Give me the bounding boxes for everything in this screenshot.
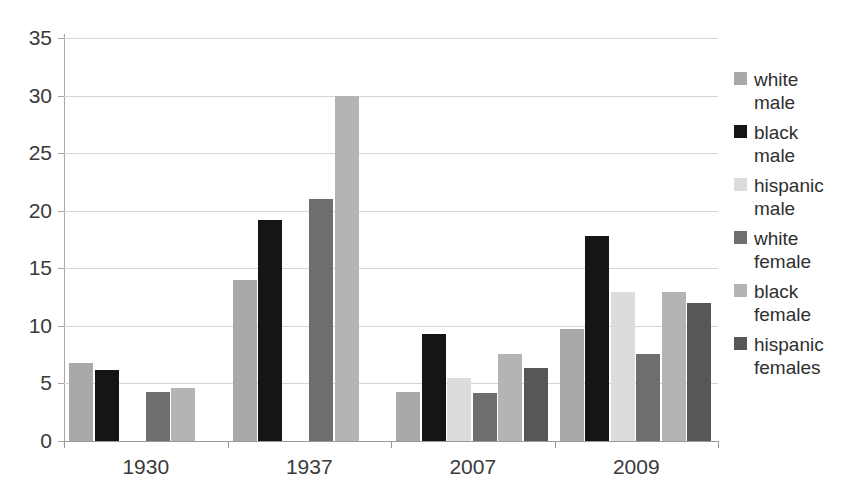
legend-swatch-icon	[734, 178, 747, 191]
bar	[447, 378, 471, 441]
y-axis-tick	[58, 38, 64, 39]
bar	[422, 334, 446, 441]
gridline	[64, 153, 718, 154]
legend-item-label: white female	[754, 227, 811, 273]
y-axis-tick-label: 5	[40, 372, 52, 393]
x-axis-category-label: 1937	[286, 455, 333, 479]
bar	[233, 280, 257, 441]
legend-item-label: hispanic male	[754, 174, 824, 220]
y-axis-tick	[58, 153, 64, 154]
legend-swatch-icon	[734, 72, 747, 85]
bar	[95, 370, 119, 441]
legend-item[interactable]: black female	[734, 280, 858, 326]
legend-item[interactable]: white female	[734, 227, 858, 273]
bar	[146, 392, 170, 442]
legend-item[interactable]: white male	[734, 68, 858, 114]
x-axis-tick	[64, 441, 65, 448]
legend-swatch-icon	[734, 231, 747, 244]
y-axis-tick-label: 15	[29, 257, 52, 278]
legend-item-label: hispanic females	[754, 333, 824, 379]
x-axis-category-label: 1930	[122, 455, 169, 479]
x-axis-tick	[555, 441, 556, 448]
bar	[687, 303, 711, 441]
y-axis-tick-label: 25	[29, 142, 52, 163]
bar	[309, 199, 333, 441]
bar	[585, 236, 609, 441]
y-axis-tick	[58, 383, 64, 384]
bar	[611, 292, 635, 441]
bar	[171, 388, 195, 441]
y-axis-tick-label: 30	[29, 85, 52, 106]
y-axis-tick	[58, 326, 64, 327]
gridline	[64, 96, 718, 97]
bar	[636, 354, 660, 442]
gridline	[64, 211, 718, 212]
y-axis-tick-labels: 05101520253035	[0, 0, 52, 499]
plot-area	[64, 38, 718, 441]
legend-item-label: black female	[754, 280, 811, 326]
y-axis-tick	[58, 211, 64, 212]
legend-swatch-icon	[734, 125, 747, 138]
gridline	[64, 268, 718, 269]
bar	[335, 96, 359, 441]
bar	[560, 329, 584, 441]
legend-swatch-icon	[734, 337, 747, 350]
y-axis-tick-label: 20	[29, 200, 52, 221]
bar	[396, 392, 420, 442]
legend-item-label: white male	[754, 68, 798, 114]
x-axis-category-label: 2009	[613, 455, 660, 479]
y-axis-tick	[58, 96, 64, 97]
bar	[258, 220, 282, 441]
bar	[69, 363, 93, 441]
legend-swatch-icon	[734, 284, 747, 297]
y-axis-tick-label: 10	[29, 315, 52, 336]
legend-item[interactable]: black male	[734, 121, 858, 167]
legend-item-label: black male	[754, 121, 798, 167]
x-axis-tick	[228, 441, 229, 448]
y-axis-tick-label: 35	[29, 27, 52, 48]
y-axis-tick-label: 0	[40, 430, 52, 451]
gridline	[64, 38, 718, 39]
legend-item[interactable]: hispanic females	[734, 333, 858, 379]
x-axis-tick	[718, 441, 719, 448]
legend-item[interactable]: hispanic male	[734, 174, 858, 220]
bar	[524, 368, 548, 441]
bar	[662, 292, 686, 441]
bar-chart: 05101520253035 1930193720072009 white ma…	[0, 0, 861, 499]
bar	[473, 393, 497, 441]
x-axis-category-label: 2007	[449, 455, 496, 479]
x-axis-tick	[391, 441, 392, 448]
chart-legend: white maleblack malehispanic malewhite f…	[734, 68, 858, 386]
bar	[498, 354, 522, 442]
y-axis-tick	[58, 268, 64, 269]
